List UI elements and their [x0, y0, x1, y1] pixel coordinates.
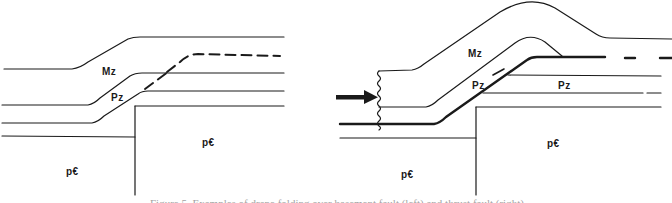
right-panel: [340, 2, 672, 195]
pz-base-horizon: [2, 91, 284, 123]
label-precambrian-left-downthrown: p€: [66, 166, 79, 177]
mz-base-horizon: [2, 73, 284, 105]
cross-section-drawing: [0, 0, 672, 203]
label-pz-footwall: Pz: [558, 80, 571, 91]
slip-indicator: [493, 69, 504, 75]
label-precambrian-right-upthrown: p€: [547, 138, 560, 149]
figure-caption: Figure 5. Examples of drape folding over…: [150, 197, 570, 203]
label-pz-left: Pz: [111, 92, 124, 103]
dashed-fault-trace: [145, 54, 280, 89]
pz-upper-footwall-horizon: [508, 75, 661, 76]
left-panel: [2, 37, 284, 195]
label-precambrian-left-upthrown: p€: [202, 137, 215, 148]
label-pz-hanging-wall: Pz: [472, 80, 485, 91]
precambrian-surface-downthrown: [2, 136, 135, 137]
label-precambrian-right-downthrown: p€: [401, 169, 414, 180]
label-mz-left: Mz: [102, 66, 116, 77]
geologic-cross-section-figure: Mz Pz p€ p€ Mz Pz Pz p€ p€ Figure 5. Exa…: [0, 0, 672, 203]
compression-arrow-icon: [336, 90, 378, 104]
decollement-wavy-line: [378, 71, 381, 130]
label-mz-right: Mz: [468, 48, 482, 59]
mz-top-horizon: [4, 37, 284, 69]
